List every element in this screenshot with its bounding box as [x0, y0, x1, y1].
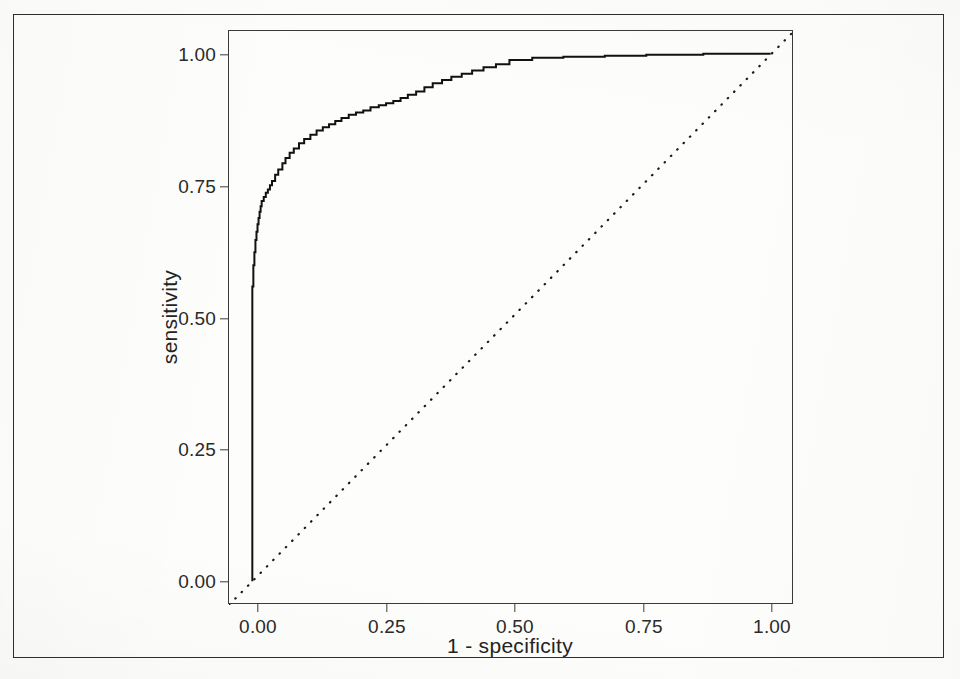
- y-tick-mark-025: [220, 449, 228, 450]
- x-axis-title: 1 - specificity: [447, 634, 573, 658]
- y-tick-mark-075: [220, 186, 228, 187]
- chance-diagonal-group: [229, 31, 794, 605]
- figure-page: 1.00 0.75 0.50 0.25 0.00 0.00 0.25 0.50 …: [0, 0, 960, 679]
- y-tick-label-0: 0.00: [150, 571, 216, 593]
- y-tick-label-075: 0.75: [150, 176, 216, 198]
- x-tick-mark-050: [514, 604, 515, 612]
- x-tick-mark-025: [386, 604, 387, 612]
- x-tick-label-025: 0.25: [368, 616, 406, 638]
- chance-diagonal-line: [229, 31, 794, 605]
- roc-plot-svg: [229, 31, 794, 605]
- x-tick-label-1: 1.00: [753, 616, 791, 638]
- x-tick-label-0: 0.00: [239, 616, 277, 638]
- x-tick-mark-1: [771, 604, 772, 612]
- x-tick-mark-0: [257, 604, 258, 612]
- y-axis-title: sensitivity: [158, 270, 182, 364]
- y-tick-label-1: 1.00: [150, 44, 216, 66]
- y-tick-mark-1: [220, 54, 228, 55]
- y-tick-label-025: 0.25: [150, 439, 216, 461]
- y-tick-mark-050: [220, 318, 228, 319]
- x-tick-mark-075: [643, 604, 644, 612]
- x-tick-label-075: 0.75: [625, 616, 663, 638]
- plot-panel: [228, 30, 793, 604]
- y-tick-mark-0: [220, 581, 228, 582]
